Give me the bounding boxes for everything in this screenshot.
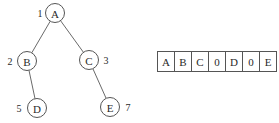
tree-node-e: E7 (101, 98, 131, 117)
node-index-label: 3 (104, 55, 109, 66)
edge-c-e (93, 69, 106, 99)
array-cell: D (226, 52, 243, 71)
node-index-label: 7 (126, 102, 131, 113)
node-label: E (107, 102, 114, 114)
array-cell: 0 (243, 52, 260, 71)
edge-a-c (61, 21, 84, 53)
array-cell: E (260, 52, 276, 71)
node-index-label: 5 (17, 103, 22, 114)
edge-a-b (32, 21, 50, 53)
node-label: B (23, 56, 30, 68)
array-cell: 0 (209, 52, 226, 71)
node-index-label: 2 (8, 56, 13, 67)
edge-b-d (29, 70, 35, 98)
tree-node-d: D5 (17, 99, 47, 118)
node-label: D (33, 103, 41, 115)
tree-nodes: A1B2C3D5E7 (8, 4, 131, 118)
sequential-storage-array: ABC0D0E (157, 51, 277, 72)
node-index-label: 1 (38, 8, 43, 19)
tree-node-a: A1 (38, 4, 65, 23)
tree-node-b: B2 (8, 52, 37, 71)
node-label: A (51, 8, 59, 20)
array-cell: B (175, 52, 192, 71)
tree-node-c: C3 (80, 51, 109, 70)
node-label: C (85, 55, 92, 67)
figure-caption-cropped (128, 117, 278, 123)
array-cell: A (158, 52, 175, 71)
array-cell: C (192, 52, 209, 71)
